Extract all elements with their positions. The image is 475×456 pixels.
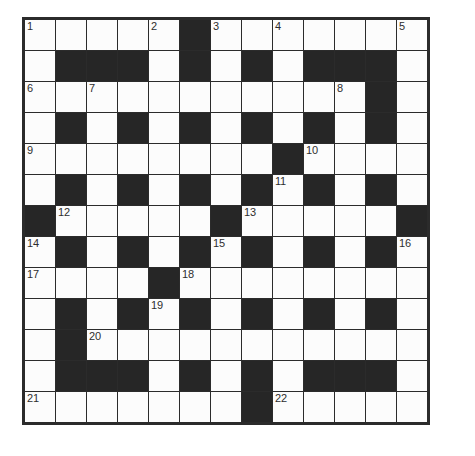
letter-cell[interactable] bbox=[180, 206, 211, 237]
letter-cell[interactable] bbox=[273, 51, 304, 82]
letter-cell[interactable] bbox=[242, 82, 273, 113]
letter-cell[interactable] bbox=[87, 206, 118, 237]
letter-cell[interactable] bbox=[304, 392, 335, 423]
letter-cell[interactable] bbox=[273, 237, 304, 268]
letter-cell[interactable] bbox=[397, 51, 428, 82]
letter-cell[interactable] bbox=[335, 175, 366, 206]
letter-cell[interactable] bbox=[397, 361, 428, 392]
letter-cell[interactable] bbox=[366, 268, 397, 299]
letter-cell[interactable] bbox=[211, 144, 242, 175]
letter-cell[interactable] bbox=[149, 330, 180, 361]
letter-cell[interactable] bbox=[87, 113, 118, 144]
letter-cell[interactable] bbox=[25, 113, 56, 144]
letter-cell[interactable] bbox=[366, 144, 397, 175]
letter-cell[interactable] bbox=[149, 82, 180, 113]
letter-cell[interactable]: 8 bbox=[335, 82, 366, 113]
letter-cell[interactable] bbox=[273, 113, 304, 144]
letter-cell[interactable] bbox=[149, 51, 180, 82]
letter-cell[interactable] bbox=[211, 392, 242, 423]
letter-cell[interactable]: 14 bbox=[25, 237, 56, 268]
letter-cell[interactable] bbox=[118, 330, 149, 361]
letter-cell[interactable] bbox=[366, 20, 397, 51]
letter-cell[interactable] bbox=[87, 268, 118, 299]
letter-cell[interactable] bbox=[366, 330, 397, 361]
letter-cell[interactable]: 7 bbox=[87, 82, 118, 113]
letter-cell[interactable] bbox=[335, 20, 366, 51]
letter-cell[interactable]: 5 bbox=[397, 20, 428, 51]
letter-cell[interactable] bbox=[118, 392, 149, 423]
letter-cell[interactable] bbox=[25, 330, 56, 361]
letter-cell[interactable]: 4 bbox=[273, 20, 304, 51]
letter-cell[interactable]: 15 bbox=[211, 237, 242, 268]
letter-cell[interactable] bbox=[118, 268, 149, 299]
letter-cell[interactable] bbox=[335, 206, 366, 237]
letter-cell[interactable] bbox=[273, 206, 304, 237]
letter-cell[interactable] bbox=[87, 175, 118, 206]
letter-cell[interactable] bbox=[56, 20, 87, 51]
letter-cell[interactable]: 10 bbox=[304, 144, 335, 175]
letter-cell[interactable] bbox=[335, 299, 366, 330]
letter-cell[interactable] bbox=[304, 82, 335, 113]
letter-cell[interactable] bbox=[149, 237, 180, 268]
letter-cell[interactable] bbox=[304, 330, 335, 361]
letter-cell[interactable] bbox=[273, 268, 304, 299]
letter-cell[interactable]: 13 bbox=[242, 206, 273, 237]
letter-cell[interactable] bbox=[87, 392, 118, 423]
letter-cell[interactable] bbox=[273, 299, 304, 330]
letter-cell[interactable] bbox=[87, 20, 118, 51]
letter-cell[interactable]: 19 bbox=[149, 299, 180, 330]
letter-cell[interactable] bbox=[25, 299, 56, 330]
letter-cell[interactable] bbox=[335, 268, 366, 299]
letter-cell[interactable] bbox=[335, 392, 366, 423]
letter-cell[interactable] bbox=[56, 268, 87, 299]
letter-cell[interactable] bbox=[149, 392, 180, 423]
letter-cell[interactable]: 22 bbox=[273, 392, 304, 423]
letter-cell[interactable] bbox=[335, 237, 366, 268]
letter-cell[interactable]: 21 bbox=[25, 392, 56, 423]
letter-cell[interactable] bbox=[211, 361, 242, 392]
letter-cell[interactable] bbox=[180, 392, 211, 423]
letter-cell[interactable]: 11 bbox=[273, 175, 304, 206]
letter-cell[interactable] bbox=[25, 361, 56, 392]
letter-cell[interactable]: 9 bbox=[25, 144, 56, 175]
letter-cell[interactable] bbox=[397, 392, 428, 423]
letter-cell[interactable]: 6 bbox=[25, 82, 56, 113]
letter-cell[interactable] bbox=[56, 144, 87, 175]
letter-cell[interactable] bbox=[25, 51, 56, 82]
letter-cell[interactable] bbox=[335, 113, 366, 144]
letter-cell[interactable] bbox=[335, 144, 366, 175]
letter-cell[interactable] bbox=[211, 299, 242, 330]
letter-cell[interactable] bbox=[304, 268, 335, 299]
letter-cell[interactable] bbox=[87, 144, 118, 175]
letter-cell[interactable] bbox=[397, 299, 428, 330]
letter-cell[interactable] bbox=[149, 144, 180, 175]
letter-cell[interactable] bbox=[304, 20, 335, 51]
letter-cell[interactable] bbox=[304, 206, 335, 237]
letter-cell[interactable] bbox=[211, 175, 242, 206]
letter-cell[interactable] bbox=[211, 51, 242, 82]
letter-cell[interactable]: 18 bbox=[180, 268, 211, 299]
letter-cell[interactable] bbox=[149, 175, 180, 206]
letter-cell[interactable]: 3 bbox=[211, 20, 242, 51]
letter-cell[interactable]: 2 bbox=[149, 20, 180, 51]
letter-cell[interactable]: 17 bbox=[25, 268, 56, 299]
letter-cell[interactable] bbox=[211, 330, 242, 361]
letter-cell[interactable]: 20 bbox=[87, 330, 118, 361]
letter-cell[interactable] bbox=[397, 175, 428, 206]
letter-cell[interactable] bbox=[273, 330, 304, 361]
letter-cell[interactable] bbox=[366, 392, 397, 423]
letter-cell[interactable] bbox=[397, 268, 428, 299]
letter-cell[interactable] bbox=[397, 144, 428, 175]
letter-cell[interactable] bbox=[397, 113, 428, 144]
letter-cell[interactable] bbox=[180, 144, 211, 175]
letter-cell[interactable] bbox=[118, 206, 149, 237]
letter-cell[interactable] bbox=[366, 206, 397, 237]
letter-cell[interactable]: 16 bbox=[397, 237, 428, 268]
letter-cell[interactable] bbox=[118, 144, 149, 175]
letter-cell[interactable] bbox=[149, 113, 180, 144]
letter-cell[interactable] bbox=[335, 330, 366, 361]
letter-cell[interactable] bbox=[56, 82, 87, 113]
letter-cell[interactable] bbox=[56, 392, 87, 423]
letter-cell[interactable] bbox=[87, 237, 118, 268]
letter-cell[interactable] bbox=[118, 82, 149, 113]
